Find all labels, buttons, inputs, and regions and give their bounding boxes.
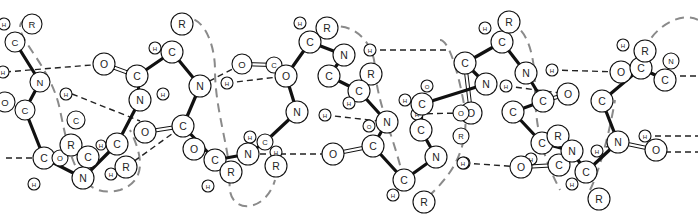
atom-c: C [161, 41, 183, 63]
atom-label: O [564, 89, 572, 100]
atom-label: N [79, 173, 87, 184]
atom-label: O [238, 59, 245, 70]
atom-label: C [40, 153, 48, 164]
atom-label: O [1, 97, 8, 108]
atom-label: O [617, 67, 625, 78]
atom-label: C [168, 47, 176, 58]
atom-o: O [0, 92, 15, 112]
atom-label: H [595, 149, 599, 155]
atom-h: H [221, 77, 233, 89]
atoms: CRHNHHOCOCHCRNHNHOCOCRHCORCNHCHRHCOCOHCR… [0, 11, 679, 213]
atom-label: H [391, 193, 395, 199]
atom-c: C [5, 32, 25, 52]
atom-label: R [458, 132, 464, 141]
atom-o: O [183, 138, 205, 160]
atom-label: C [262, 138, 268, 147]
atom-label: N [244, 149, 252, 160]
atom-label: C [555, 160, 563, 171]
atom-label: N [136, 95, 144, 106]
atom-c: C [411, 93, 433, 115]
atom-c: C [172, 115, 194, 137]
atom-label: O [190, 144, 198, 155]
atom-label: H [1, 70, 5, 76]
atom-h: H [479, 22, 491, 34]
atom-label: C [637, 63, 645, 74]
atom-label: O [282, 71, 290, 82]
atom-label: N [522, 68, 530, 79]
atom-o: O [510, 156, 532, 178]
atom-n: N [129, 89, 151, 111]
atom-label: R [420, 197, 428, 208]
atom-h: H [364, 44, 376, 56]
atom-label: O [425, 84, 430, 90]
atom-label: H [504, 84, 508, 90]
atom-o: O [322, 143, 344, 165]
atom-label: R [554, 131, 562, 142]
atom-label: H [32, 182, 36, 188]
atom-h: H [639, 130, 651, 142]
atom-label: O [652, 145, 660, 156]
atom-label: N [668, 57, 673, 66]
atom-label: C [498, 37, 506, 48]
atom-n: N [286, 101, 308, 123]
atom-r: R [171, 13, 193, 35]
atom-c: C [410, 119, 432, 141]
atom-label: C [211, 155, 219, 166]
atom-label: O [517, 162, 525, 173]
atom-label: H [403, 98, 407, 104]
atom-label: H [550, 68, 554, 74]
atom-label: H [347, 101, 351, 107]
atom-h: H [157, 88, 169, 100]
atom-o: O [363, 120, 375, 132]
atom-r: R [588, 188, 610, 210]
atom-label: H [161, 92, 165, 98]
atom-label: R [178, 19, 186, 30]
atom-c: C [591, 90, 613, 112]
atom-label: N [568, 146, 576, 157]
atom-c: C [502, 101, 524, 123]
atom-label: R [272, 161, 280, 172]
hydrogen-bond [5, 64, 104, 72]
atom-label: H [99, 143, 103, 149]
atom-label: R [29, 19, 36, 30]
atom-label: C [417, 125, 425, 136]
atom-c: C [532, 90, 554, 112]
atom-label: R [367, 69, 375, 80]
atom-label: R [323, 23, 331, 34]
atom-r: R [22, 14, 42, 34]
atom-r: R [115, 156, 137, 178]
atom-n: N [561, 140, 583, 162]
atom-c: C [106, 133, 128, 155]
atom-h: H [399, 94, 411, 106]
atom-label: C [598, 96, 606, 107]
atom-label: H [570, 182, 574, 188]
atom-label: N [614, 137, 622, 148]
atom-c: C [15, 100, 35, 120]
atom-n: N [425, 146, 447, 168]
atom-o: O [421, 80, 433, 92]
atom-label: H [621, 43, 625, 49]
atom-label: H [483, 26, 487, 32]
atom-label: C [12, 37, 19, 48]
atom-r: R [498, 11, 520, 33]
atom-label: R [641, 46, 649, 57]
atom-label: N [383, 117, 391, 128]
atom-label: C [271, 61, 277, 70]
atom-o: O [93, 53, 115, 75]
atom-label: H [368, 48, 372, 54]
atom-n: N [376, 111, 398, 133]
atom-h: H [60, 88, 72, 100]
helix-axis-paths [20, 17, 698, 206]
atom-label: C [306, 37, 314, 48]
atom-r: R [413, 191, 435, 213]
atom-c: C [654, 69, 676, 91]
atom-label: H [298, 21, 302, 27]
atom-c: C [393, 169, 415, 191]
atom-label: R [595, 194, 603, 205]
atom-c: C [575, 161, 597, 183]
atom-label: O [141, 127, 149, 138]
atom-label: O [367, 124, 372, 130]
helix-diagram-canvas: CRHNHHOCOCHCRNHNHOCOCRHCORCNHCHRHCOCOHCR… [0, 0, 698, 223]
atom-label: H [643, 134, 647, 140]
atom-h: H [244, 131, 256, 143]
